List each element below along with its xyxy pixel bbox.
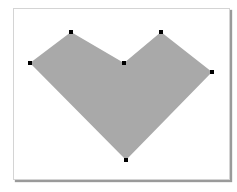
drawing-canvas[interactable] [0, 0, 237, 192]
vertex-handle-1[interactable] [122, 61, 126, 65]
vertex-handle-0[interactable] [69, 30, 73, 34]
selected-polygon-shape[interactable] [30, 32, 212, 160]
vertex-handle-4[interactable] [124, 158, 128, 162]
vertex-handle-2[interactable] [159, 30, 163, 34]
vertex-handle-3[interactable] [210, 70, 214, 74]
vertex-handle-5[interactable] [28, 61, 32, 65]
